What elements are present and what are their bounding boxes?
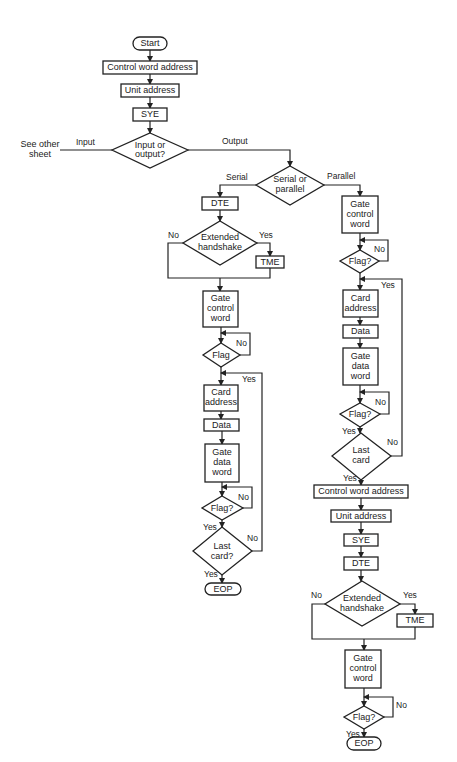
serial-dte-label: DTE <box>211 198 229 208</box>
serial-eh-line2: handshake <box>198 242 242 252</box>
flowchart: Start Control word address Unit address … <box>0 0 457 762</box>
parallel-last-yes-label: Yes <box>343 473 357 483</box>
eh2-no-label: No <box>311 590 322 600</box>
sp-line2: parallel <box>275 184 304 194</box>
serial-eop-label: EOP <box>213 584 232 594</box>
serial-edge-label: Serial <box>226 172 248 182</box>
serial-data-label: Data <box>212 420 231 430</box>
parallel-last-no-label: No <box>387 437 398 447</box>
serial-eh-no-label: No <box>168 230 179 240</box>
control-word-address-label: Control word address <box>107 62 193 72</box>
parallel-gcw-line2: control <box>346 209 373 219</box>
see-other-line2: sheet <box>29 149 52 159</box>
serial-eh-line1: Extended <box>201 232 239 242</box>
serial-card-line1: Card <box>211 387 231 397</box>
parallel-last-line1: Last <box>352 445 370 455</box>
see-other-line1: See other <box>20 139 59 149</box>
sp-line1: Serial or <box>273 174 307 184</box>
serial-last-yes-label: Yes <box>204 569 218 579</box>
gcw2-line2: control <box>349 663 376 673</box>
flag3-label: Flag? <box>353 712 376 722</box>
parallel-flag2-label: Flag? <box>349 409 372 419</box>
eop-label-2: EOP <box>354 738 373 748</box>
sye-label-2: SYE <box>352 535 370 545</box>
input-edge-label: Input <box>76 137 96 147</box>
parallel-card-line1: Card <box>351 293 371 303</box>
sye-label: SYE <box>141 109 159 119</box>
gcw2-line3: word <box>352 673 373 683</box>
io-line2: output? <box>135 149 165 159</box>
serial-tme-label: TME <box>261 257 280 267</box>
parallel-edge-label: Parallel <box>327 171 355 181</box>
output-edge-label: Output <box>222 136 248 146</box>
serial-gdw-line2: data <box>213 457 231 467</box>
tme-label-2: TME <box>406 615 425 625</box>
unit-address-label-2: Unit address <box>336 511 387 521</box>
serial-flag1-label: Flag <box>212 350 230 360</box>
eh2-line1: Extended <box>343 593 381 603</box>
start-label: Start <box>140 38 160 48</box>
unit-address-label: Unit address <box>125 85 176 95</box>
serial-flag2-label: Flag? <box>211 503 234 513</box>
dte-label-2: DTE <box>352 558 370 568</box>
parallel-last-yes-loop-label: Yes <box>381 280 395 290</box>
serial-eh-yes-label: Yes <box>259 230 273 240</box>
parallel-gdw-line3: word <box>350 371 371 381</box>
serial-flag2-no-label: No <box>238 492 249 502</box>
serial-last-no-label: No <box>247 533 258 543</box>
parallel-flag2-no-label: No <box>375 397 386 407</box>
parallel-flag1-label: Flag? <box>349 256 372 266</box>
serial-card-line2: address <box>205 397 238 407</box>
parallel-gcw-line1: Gate <box>350 199 370 209</box>
parallel-flag2-yes-label: Yes <box>342 426 356 436</box>
parallel-flag1-no-label: No <box>374 244 385 254</box>
parallel-gdw-line2: data <box>352 361 370 371</box>
control-word-address-label-2: Control word address <box>318 486 404 496</box>
serial-last-line2: card? <box>211 551 234 561</box>
serial-gcw-line2: control <box>207 303 234 313</box>
serial-gdw-line3: word <box>211 467 232 477</box>
eh2-yes-label: Yes <box>403 590 417 600</box>
serial-gcw-line3: word <box>210 313 231 323</box>
parallel-card-line2: address <box>344 303 377 313</box>
serial-last-yes-loop-label: Yes <box>242 374 256 384</box>
serial-flag1-no-label: No <box>236 338 247 348</box>
serial-flag2-yes-label: Yes <box>203 522 217 532</box>
parallel-gdw-line1: Gate <box>351 351 371 361</box>
serial-gcw-line1: Gate <box>211 293 231 303</box>
parallel-data-label: Data <box>351 326 370 336</box>
parallel-gcw-line3: word <box>349 219 370 229</box>
eh2-line2: handshake <box>340 603 384 613</box>
parallel-last-line2: card <box>352 455 370 465</box>
serial-gdw-line1: Gate <box>212 447 232 457</box>
flag3-no-label: No <box>396 700 407 710</box>
serial-last-line1: Last <box>213 541 231 551</box>
gcw2-line1: Gate <box>353 653 373 663</box>
